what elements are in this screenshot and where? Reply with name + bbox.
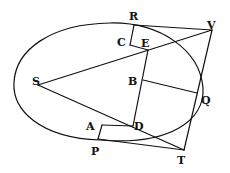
label-P: P xyxy=(91,145,99,158)
ellipse-curve xyxy=(14,23,203,141)
label-A: A xyxy=(85,120,95,133)
label-E: E xyxy=(141,37,149,50)
label-R: R xyxy=(129,10,139,23)
label-Q: Q xyxy=(201,94,211,107)
segment-VT xyxy=(184,30,212,150)
label-B: B xyxy=(128,75,137,88)
label-C: C xyxy=(117,36,126,49)
segment-RC xyxy=(130,25,134,45)
diagram-canvas: R V C E S B Q A D P T xyxy=(0,0,230,173)
label-D: D xyxy=(134,120,144,133)
segment-ED xyxy=(133,50,148,126)
segment-AP xyxy=(98,125,102,139)
label-S: S xyxy=(32,75,40,88)
label-V: V xyxy=(206,19,216,32)
label-T: T xyxy=(177,154,186,167)
segment-BQ xyxy=(143,80,197,93)
